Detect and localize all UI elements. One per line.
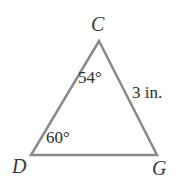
vertex-label-g: G xyxy=(152,158,166,178)
angle-label-c: 54° xyxy=(78,69,102,86)
vertex-label-d: D xyxy=(12,156,26,176)
vertex-label-c: C xyxy=(91,14,104,34)
geometry-figure: C D G 54° 60° 3 in. xyxy=(0,0,181,188)
angle-label-d: 60° xyxy=(46,129,70,146)
side-length-label-cg: 3 in. xyxy=(132,84,162,101)
